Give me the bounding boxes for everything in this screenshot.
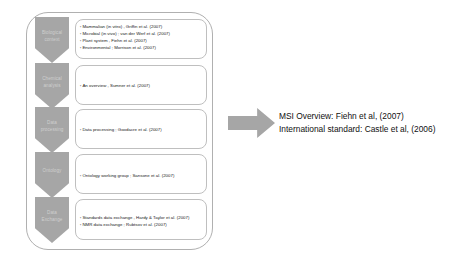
content-box-chemical-analysis: An overview , Sumner et al. (2007): [75, 65, 207, 105]
stage-row-chemical-analysis: Chemical analysis An overview , Sumner e…: [27, 63, 212, 109]
bullet-item: Data processing ; Goodacre et al. (2007): [80, 126, 203, 133]
content-box-data-processing: Data processing ; Goodacre et al. (2007): [75, 109, 207, 149]
bullet-item: An overview , Sumner et al. (2007): [80, 82, 203, 89]
stage-label-data-processing: Data processing: [35, 120, 69, 140]
chevron-down-icon-ontology: Ontology: [35, 152, 69, 198]
bullet-item: Standards data exchange , Hardy & Taylor…: [80, 214, 203, 221]
chevron-down-icon-chemical-analysis: Chemical analysis: [35, 63, 69, 109]
metabolomics-workflow-container: Biological context Mammalian (in vitro) …: [26, 12, 213, 250]
bullet-item: Ontology working group ; Sansone et al. …: [80, 172, 203, 179]
stage-label-ontology: Ontology: [42, 168, 63, 182]
stage-row-data-exchange: Data Exchange Standards data exchange , …: [27, 197, 212, 243]
chevron-down-icon-biological-context: Biological context: [35, 17, 69, 63]
stage-label-chemical-analysis: Chemical analysis: [35, 76, 69, 96]
content-box-biological-context: Mammalian (in vitro) , Griffin et al. (2…: [75, 19, 207, 59]
stage-row-data-processing: Data processing Data processing ; Goodac…: [27, 107, 212, 153]
bullet-group: An overview , Sumner et al. (2007): [80, 69, 203, 89]
stage-row-ontology: Ontology Ontology working group ; Sanson…: [27, 152, 212, 198]
caption-line-international-standard: International standard: Castle et al, (2…: [279, 123, 454, 136]
bullet-item: NMR data exchange ; Rubtsov et al. (2007…: [80, 221, 203, 228]
stage-label-biological-context: Biological context: [35, 30, 69, 50]
stage-row-biological-context: Biological context Mammalian (in vitro) …: [27, 17, 212, 63]
bullet-item: Environmental ; Morrison et al. (2007): [80, 44, 203, 51]
content-box-ontology: Ontology working group ; Sansone et al. …: [75, 154, 207, 194]
right-arrow-icon: [228, 108, 275, 138]
caption-line-msi-overview: MSI Overview: Fiehn et al, (2007): [279, 110, 454, 123]
bullet-group: Standards data exchange , Hardy & Taylor…: [80, 203, 203, 228]
caption-block: MSI Overview: Fiehn et al, (2007) Intern…: [279, 110, 454, 136]
bullet-group: Data processing ; Goodacre et al. (2007): [80, 113, 203, 133]
bullet-group: Ontology working group ; Sansone et al. …: [80, 158, 203, 179]
content-box-data-exchange: Standards data exchange , Hardy & Taylor…: [75, 199, 207, 240]
bullet-item: Microbial (in vivo) ; van der Werf et al…: [80, 30, 203, 37]
chevron-down-icon-data-exchange: Data Exchange: [35, 197, 69, 243]
bullet-item: Plant system , Fiehn et al. (2007): [80, 37, 203, 44]
stage-label-data-exchange: Data Exchange: [35, 210, 69, 230]
chevron-down-icon-data-processing: Data processing: [35, 107, 69, 153]
bullet-item: Mammalian (in vitro) , Griffin et al. (2…: [80, 23, 203, 30]
